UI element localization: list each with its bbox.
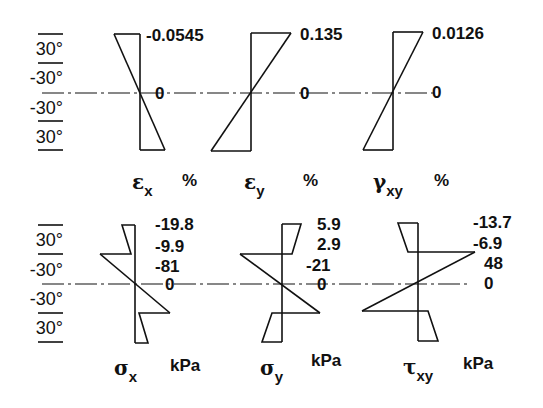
sigma-y-symbol: σy [260,358,283,382]
sigma-x-value-3: -81 [155,258,180,275]
eps-y-top-value: 0.135 [300,26,343,43]
sigma-y-profile [240,224,320,342]
top-ply-label-1: 30° [3,40,63,58]
eps-x-top-value: -0.0545 [146,27,204,44]
bottom-ply-label-1: 30° [3,231,63,249]
sigma-y-unit: kPa [311,352,341,369]
sigma-x-symbol: σx [114,358,137,382]
gamma-xy-unit: % [434,172,449,189]
eps-y-unit: % [303,172,318,189]
diagram-canvas [0,0,543,408]
bottom-ply-label-2: -30° [3,261,63,279]
sigma-x-unit: kPa [170,357,200,374]
tau-xy-value-3: 48 [484,255,503,272]
tau-xy-profile [362,223,475,341]
sigma-x-value-1: -19.8 [155,216,194,233]
sigma-y-value-4: 0 [317,276,326,293]
gamma-xy-top-value: 0.0126 [432,25,484,42]
gamma-xy-profile [363,32,423,150]
tau-xy-value-1: -13.7 [473,214,512,231]
eps-y-mid-value: 0 [300,85,309,102]
bottom-ply-label-3: -30° [3,290,63,308]
eps-x-mid-value: 0 [155,85,164,102]
tau-xy-unit: kPa [463,355,493,372]
gamma-xy-symbol: γxy [373,172,403,196]
top-ply-label-4: 30° [3,128,63,146]
sigma-y-value-1: 5.9 [317,216,341,233]
eps-y-profile [211,33,291,151]
tau-xy-value-4: 0 [484,275,493,292]
eps-y-symbol: εy [244,172,265,196]
bottom-ply-label-4: 30° [3,319,63,337]
eps-x-unit: % [182,172,197,189]
tau-xy-symbol: τxy [403,357,433,381]
sigma-y-value-2: 2.9 [317,236,341,253]
tau-xy-value-2: -6.9 [473,235,502,252]
sigma-x-value-2: -9.9 [155,238,184,255]
gamma-xy-mid-value: 0 [432,84,441,101]
eps-x-symbol: εx [132,172,153,196]
sigma-x-value-4: 0 [165,276,174,293]
top-ply-label-3: -30° [3,99,63,117]
sigma-y-value-3: -21 [306,257,331,274]
top-ply-label-2: -30° [3,69,63,87]
